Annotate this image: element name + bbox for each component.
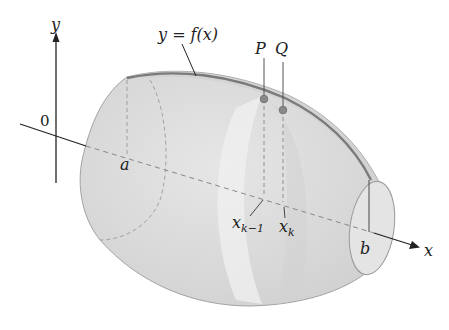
a-label: a — [120, 155, 130, 174]
y-axis — [53, 32, 60, 183]
x-axis-arrow-icon — [409, 241, 420, 249]
origin-label: 0 — [40, 112, 50, 130]
b-label: b — [360, 239, 370, 258]
point-q — [279, 106, 287, 114]
x-axis-label: x — [424, 241, 433, 260]
solid-of-revolution-figure: y 0 y = f(x) P Q a xk−1 xk b x — [0, 0, 449, 330]
curve-label: y = f(x) — [157, 25, 218, 44]
solid-body — [80, 71, 400, 306]
p-label: P — [254, 39, 266, 58]
q-label: Q — [275, 39, 288, 58]
point-p — [260, 95, 268, 103]
y-axis-label: y — [50, 15, 61, 34]
